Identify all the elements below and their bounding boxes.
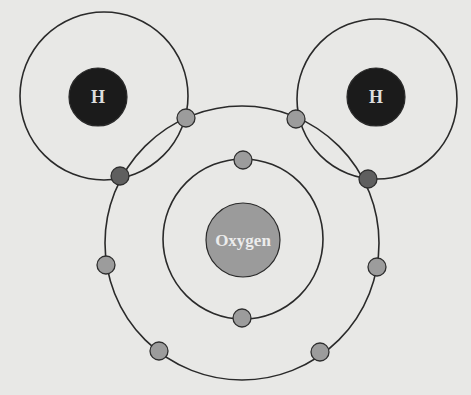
electron-2: [177, 109, 195, 127]
electron-5: [368, 258, 386, 276]
electron-7: [311, 343, 329, 361]
oxygen-label: Oxygen: [215, 231, 271, 250]
hydrogen-right-label: H: [369, 87, 383, 107]
diagram-canvas: HHOxygen: [0, 0, 471, 395]
electron-1: [233, 309, 251, 327]
electron-4: [97, 256, 115, 274]
hydrogen-left-label: H: [91, 87, 105, 107]
shared-electron-8: [111, 167, 129, 185]
water-molecule-diagram: HHOxygen: [0, 0, 471, 395]
electron-3: [287, 110, 305, 128]
electron-6: [150, 342, 168, 360]
electron-0: [234, 151, 252, 169]
shared-electron-9: [359, 170, 377, 188]
